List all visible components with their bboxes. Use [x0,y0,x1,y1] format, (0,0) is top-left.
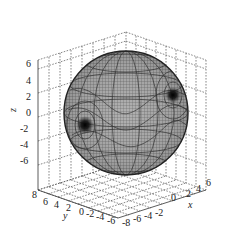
svg-text:0: 0 [26,107,31,118]
svg-text:-8: -8 [122,217,130,228]
svg-text:-6: -6 [133,213,141,224]
svg-text:6: 6 [43,196,48,207]
y-axis-line [38,190,118,218]
singular-point-right [165,87,181,103]
svg-text:8: 8 [32,189,37,200]
svg-text:2: 2 [186,188,191,199]
svg-text:6: 6 [206,177,211,188]
svg-text:0: 0 [79,206,84,217]
y-ticks: 8 6 4 2 0 -2 -4 -6 [32,189,115,226]
svg-text:-6: -6 [20,155,28,166]
svg-text:-4: -4 [144,210,152,221]
svg-text:-2: -2 [155,207,163,218]
chart-root: 6 4 2 0 -2 -4 -6 z 8 6 4 2 0 -2 -4 -6 y … [0,0,236,231]
svg-text:-6: -6 [107,215,115,226]
singular-point-left [76,116,94,134]
z-ticks: 6 4 2 0 -2 -4 -6 [20,58,31,166]
svg-text:-2: -2 [20,123,28,134]
y-axis-label: y [62,210,68,221]
sphere-surface [64,51,190,175]
svg-text:4: 4 [54,199,59,210]
svg-text:4: 4 [196,183,201,194]
svg-text:6: 6 [26,58,31,69]
svg-text:-4: -4 [96,211,104,222]
svg-text:4: 4 [26,75,31,86]
svg-text:2: 2 [26,91,31,102]
svg-text:0: 0 [171,192,176,203]
svg-text:-4: -4 [20,139,28,150]
x-axis-label: x [187,199,193,210]
plot-3d: 6 4 2 0 -2 -4 -6 z 8 6 4 2 0 -2 -4 -6 y … [0,0,236,231]
z-axis-label: z [7,108,18,113]
svg-text:-2: -2 [86,208,94,219]
